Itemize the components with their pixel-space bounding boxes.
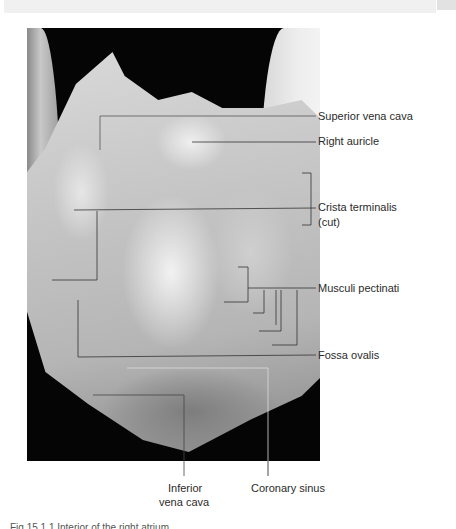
- label-crista-terminalis: Crista terminalis: [318, 201, 397, 214]
- leader-musculi-3: [259, 290, 281, 331]
- label-inferior-vena-cava-1: Inferior: [168, 482, 202, 495]
- leader-coronary-sinus: [127, 368, 268, 476]
- leader-musculi-2: [253, 290, 264, 313]
- leader-crista-bracket-left: [52, 211, 97, 280]
- leader-inferior-vena-cava: [93, 395, 184, 476]
- leader-crista-terminalis: [74, 208, 316, 210]
- leader-superior-vena-cava: [100, 116, 316, 150]
- label-superior-vena-cava: Superior vena cava: [318, 110, 413, 123]
- leader-fossa-ovalis: [78, 300, 316, 357]
- label-fossa-ovalis: Fossa ovalis: [318, 349, 379, 362]
- figure-caption: Fig 15.1.1 Interior of the right atrium: [10, 521, 180, 529]
- leader-musculi-1: [224, 267, 248, 302]
- leader-crista-bracket-right: [302, 173, 311, 225]
- label-crista-terminalis-cut: (cut): [318, 216, 340, 229]
- label-right-auricle: Right auricle: [318, 135, 379, 148]
- label-inferior-vena-cava-2: vena cava: [159, 496, 209, 509]
- leader-lines: [0, 0, 456, 529]
- label-coronary-sinus: Coronary sinus: [251, 482, 325, 495]
- label-musculi-pectinati: Musculi pectinati: [318, 282, 399, 295]
